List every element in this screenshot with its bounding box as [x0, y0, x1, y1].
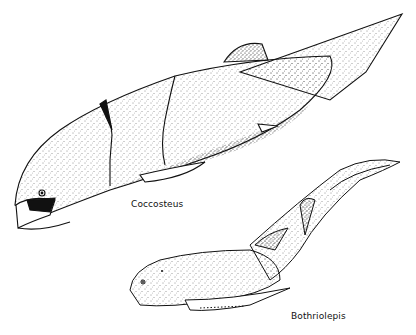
fossil-fish-illustration — [0, 0, 416, 335]
coccosteus-label: Coccosteus — [131, 199, 183, 209]
bothriolepis-label: Bothriolepis — [291, 311, 346, 321]
coccosteus-drawing — [15, 14, 402, 229]
bothriolepis-drawing — [130, 160, 400, 311]
